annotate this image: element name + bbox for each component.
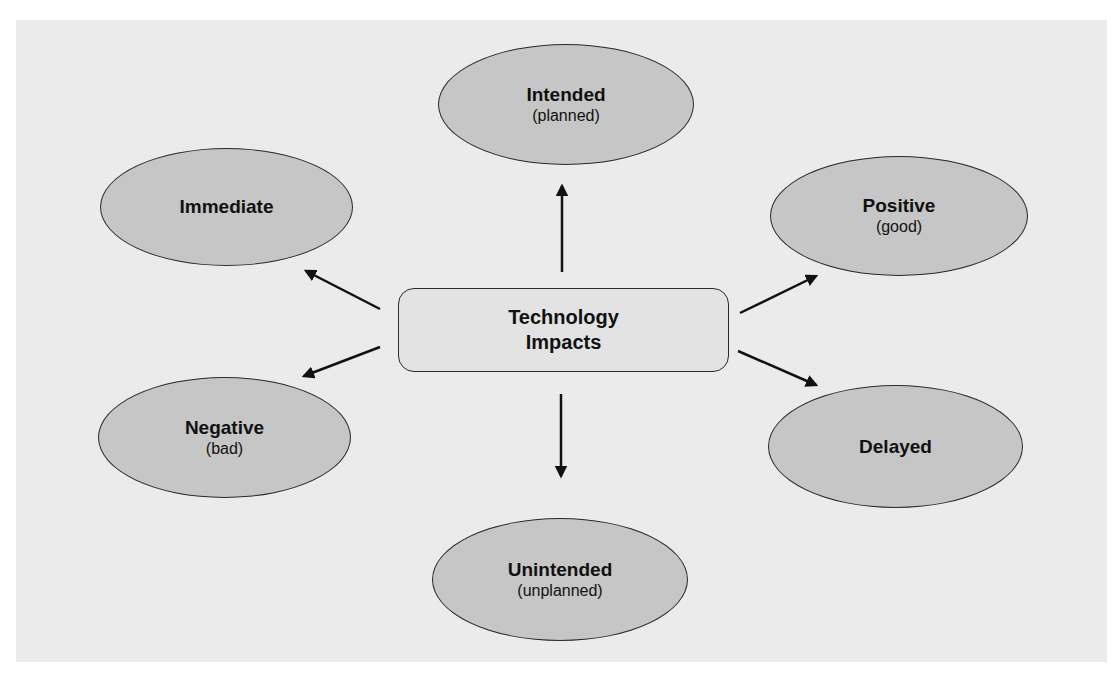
center-node-title-line1: Technology: [508, 305, 619, 330]
node-delayed-title: Delayed: [859, 436, 932, 458]
node-intended-title: Intended: [526, 84, 605, 106]
node-delayed: Delayed: [768, 385, 1023, 508]
arrow-to-negative: [304, 347, 380, 376]
node-unintended-title: Unintended: [508, 559, 613, 581]
center-node-title-line2: Impacts: [526, 330, 602, 355]
arrow-to-delayed: [738, 351, 816, 385]
node-unintended-subtitle: (unplanned): [517, 581, 602, 601]
node-immediate: Immediate: [100, 148, 353, 266]
arrow-to-immediate: [306, 271, 380, 309]
arrow-to-positive: [740, 276, 816, 313]
node-intended: Intended (planned): [438, 44, 694, 165]
node-unintended: Unintended (unplanned): [432, 518, 688, 641]
node-negative-subtitle: (bad): [206, 439, 243, 459]
center-node-technology-impacts: Technology Impacts: [398, 288, 729, 372]
node-positive: Positive (good): [770, 156, 1028, 276]
node-negative-title: Negative: [185, 417, 264, 439]
node-positive-title: Positive: [863, 195, 936, 217]
node-negative: Negative (bad): [98, 377, 351, 498]
node-intended-subtitle: (planned): [532, 106, 600, 126]
node-immediate-title: Immediate: [180, 196, 274, 218]
node-positive-subtitle: (good): [876, 217, 922, 237]
